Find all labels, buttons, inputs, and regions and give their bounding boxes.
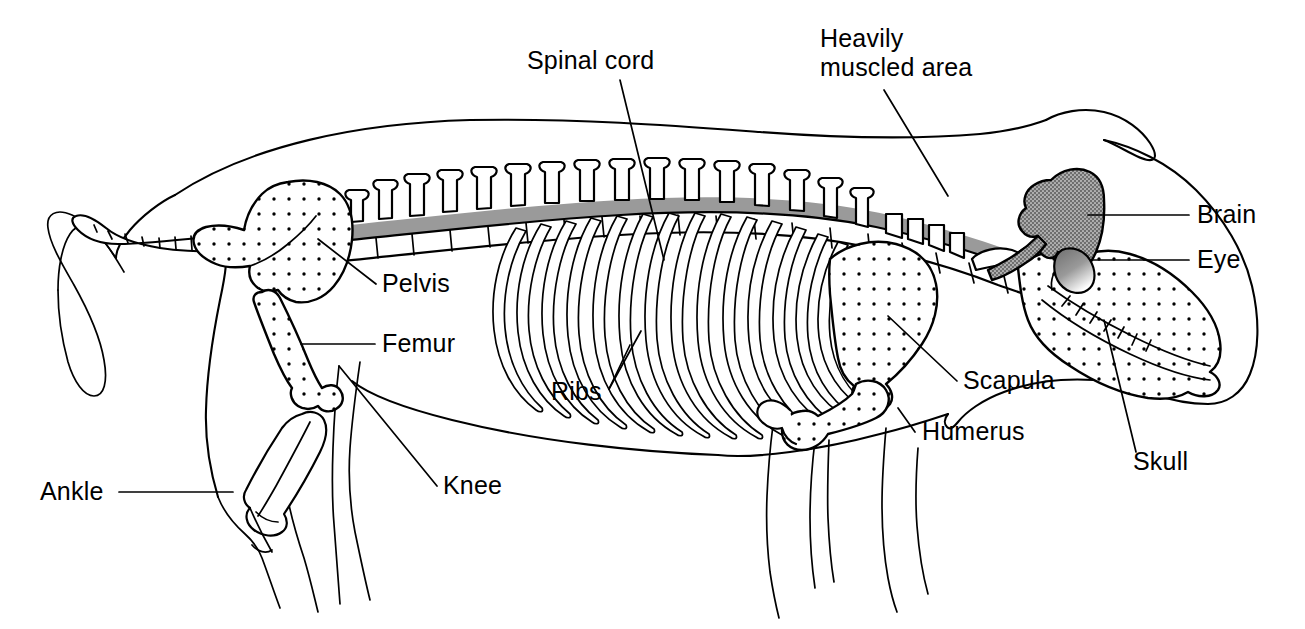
front-leg-inner-outline: [810, 440, 815, 588]
femur-bone: [253, 290, 342, 411]
label-eye: Eye: [1197, 245, 1241, 273]
hock-outline: [288, 500, 318, 612]
label-skull: Skull: [1133, 447, 1188, 475]
anatomy-figure: Spinal cord Heavily muscled area Brain E…: [0, 0, 1305, 629]
ear-outline: [1046, 110, 1155, 160]
front-leg-front-outline: [882, 428, 897, 612]
front-leg-inner2-outline: [828, 440, 834, 582]
label-heavily-muscled-area: Heavily muscled area: [820, 24, 972, 81]
hind-leg-second-outline: [349, 362, 370, 600]
label-humerus: Humerus: [922, 417, 1025, 445]
label-ribs: Ribs: [551, 377, 602, 405]
label-scapula: Scapula: [963, 366, 1055, 394]
label-knee: Knee: [443, 471, 502, 499]
label-femur: Femur: [382, 329, 455, 357]
label-spinal-cord: Spinal cord: [527, 46, 654, 74]
label-pelvis: Pelvis: [382, 269, 450, 297]
label-heavily-muscled-line2: muscled area: [820, 53, 972, 81]
label-heavily-muscled-line1: Heavily: [820, 24, 904, 52]
leader-heavily-muscled-area: [884, 90, 948, 196]
front-leg-second-outline: [916, 448, 928, 594]
tibia-bone: [244, 412, 326, 536]
label-brain: Brain: [1197, 200, 1256, 228]
rear-flank-outline: [206, 247, 226, 497]
tibia-group: [244, 412, 326, 552]
femur-group: [253, 290, 342, 411]
pig-skeleton-diagram: Spinal cord Heavily muscled area Brain E…: [0, 0, 1305, 629]
label-ankle: Ankle: [40, 477, 104, 505]
leader-knee: [339, 366, 437, 486]
pelvis-group: [194, 181, 353, 303]
pelvis-bone: [194, 181, 353, 303]
